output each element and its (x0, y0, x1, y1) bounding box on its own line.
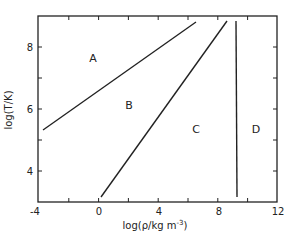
x-tick-label: 12 (272, 206, 285, 217)
x-tick-label: 4 (156, 206, 162, 217)
boundary-line-c-d (236, 21, 237, 197)
y-tick-label: 6 (27, 104, 33, 115)
region-label-b: B (125, 99, 133, 112)
x-tick-label: 0 (96, 206, 102, 217)
region-label-d: D (252, 123, 260, 136)
region-label-c: C (192, 123, 200, 136)
x-axis-label: log(ρ/kg m-3) (123, 219, 188, 231)
x-tick-label: 8 (216, 206, 222, 217)
boundary-line-b-c (101, 21, 227, 197)
y-axis-label: log(T/K) (3, 90, 14, 129)
phase-diagram-chart: -4 0 4 8 12 4 6 8 A B C D log(ρ/kg m-3) … (0, 0, 298, 236)
y-tick-label: 4 (27, 166, 33, 177)
x-tick-label: -4 (30, 206, 40, 217)
y-tick-label: 8 (27, 42, 33, 53)
region-label-a: A (89, 52, 97, 65)
boundary-line-a-b (43, 22, 196, 130)
